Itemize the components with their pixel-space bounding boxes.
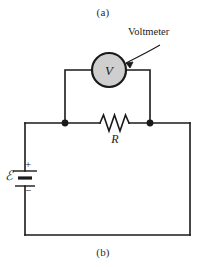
battery-plus-sign: + bbox=[25, 158, 31, 170]
junction-dot-right bbox=[147, 120, 154, 127]
resistor-label: R bbox=[110, 132, 119, 146]
battery-minus-sign: − bbox=[25, 184, 31, 196]
circuit-figure: (a) ℰ bbox=[0, 0, 206, 267]
wire-voltmeter-right-lead bbox=[126, 70, 150, 123]
circuit-diagram: ℰ + − V R Voltmeter bbox=[0, 0, 206, 267]
emf-symbol-label: ℰ bbox=[5, 168, 14, 183]
junction-dot-left bbox=[62, 120, 69, 127]
callout-arrowhead bbox=[126, 62, 133, 68]
wire-voltmeter-left-lead bbox=[65, 70, 92, 123]
callout-leader-line bbox=[126, 45, 160, 63]
callout-label: Voltmeter bbox=[128, 26, 170, 37]
resistor-symbol bbox=[100, 115, 129, 131]
panel-label-b: (b) bbox=[0, 246, 206, 258]
